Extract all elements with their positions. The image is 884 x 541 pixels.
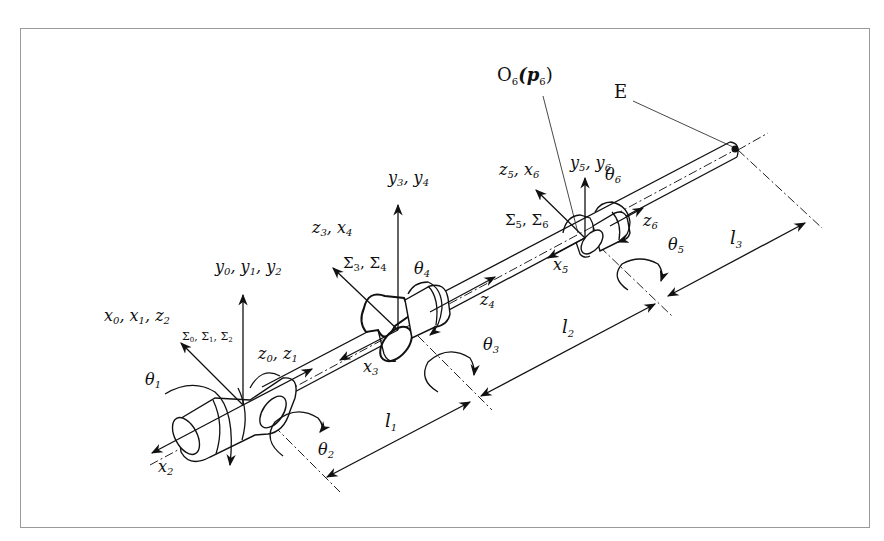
label-sigma5-sigma6: Σ5, Σ6 xyxy=(505,211,549,230)
label-z6: z6 xyxy=(642,211,658,231)
label-l3: l3 xyxy=(730,227,742,250)
label-x5: x5 xyxy=(553,255,568,275)
label-x0-x1-z2: x0, x1, z2 xyxy=(104,306,170,326)
theta3-rotation-arrow xyxy=(425,352,475,392)
label-theta5: θ5 xyxy=(668,235,684,255)
label-theta4: θ4 xyxy=(414,259,430,279)
label-z0-z1: z0, z1 xyxy=(257,344,298,364)
l1-dimension-line xyxy=(327,402,470,477)
joint-5-6-body xyxy=(563,212,630,258)
tube-lower xyxy=(272,157,737,404)
manipulator-diagram: O6(p6) E y5, y6 z5, x6 θ6 Σ5, Σ6 z6 x5 θ… xyxy=(0,0,884,541)
l3-dimension-line xyxy=(668,223,805,296)
label-sigma0-sigma1-sigma2: Σ0, Σ1, Σ2 xyxy=(182,330,233,344)
label-z5-x6: z5, x6 xyxy=(498,160,540,180)
end-axis xyxy=(738,150,822,228)
label-y3-y4: y3, y4 xyxy=(387,168,429,188)
joint-axis-lines xyxy=(262,133,822,492)
label-l1: l1 xyxy=(385,410,397,433)
label-l2: l2 xyxy=(562,316,574,339)
label-z4: z4 xyxy=(479,290,495,310)
joint3-axis xyxy=(418,336,492,410)
label-x2: x2 xyxy=(158,457,173,477)
label-z3-x4: z3, x4 xyxy=(311,218,352,238)
label-theta1: θ1 xyxy=(145,370,161,390)
label-theta6: θ6 xyxy=(605,165,622,185)
label-theta2: θ2 xyxy=(318,440,334,460)
x0-axis-arrow xyxy=(181,343,243,405)
label-end-effector: E xyxy=(614,81,627,102)
label-theta3: θ3 xyxy=(483,335,499,355)
label-sigma3-sigma4: Σ3, Σ4 xyxy=(343,254,387,273)
label-o6-p6: O6(p6) xyxy=(497,64,553,87)
label-y0-y1-y2: y0, y1, y2 xyxy=(214,257,282,277)
label-x3: x3 xyxy=(363,357,378,377)
end-axis-extension xyxy=(738,133,768,150)
e-leader-line xyxy=(633,101,733,147)
l2-dimension-line xyxy=(481,304,655,396)
joint5-axis xyxy=(600,247,672,316)
